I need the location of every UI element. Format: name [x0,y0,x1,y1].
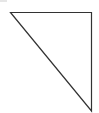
diagram-canvas [0,0,99,113]
triangle-shape [11,13,92,112]
